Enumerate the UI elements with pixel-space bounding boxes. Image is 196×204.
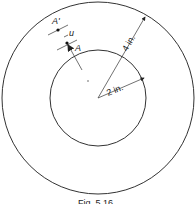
figure-caption: Fig. 5.16 <box>78 198 113 204</box>
outer-radius-label: 4 in. <box>120 33 137 53</box>
point-A <box>65 41 68 44</box>
displacement-arrow <box>68 45 71 50</box>
concentric-circles-diagram: 4 in. 2 in. A' u A Fig. 5.16 <box>0 0 196 204</box>
point-A-label: A <box>74 43 81 53</box>
u-dash <box>64 35 68 37</box>
point-A-prime-label: A' <box>51 16 60 26</box>
point-A-prime <box>56 28 59 31</box>
inner-radius-label: 2 in. <box>105 82 125 98</box>
displacement-label: u <box>69 28 74 38</box>
